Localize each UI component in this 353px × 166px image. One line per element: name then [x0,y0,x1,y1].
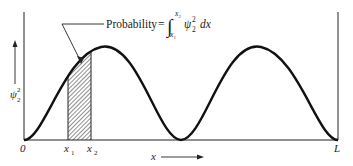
tick-x1: x [63,142,69,154]
integral-lower-limit: x₁ [169,30,176,39]
y-axis-label-subscript: 2 [17,96,21,104]
tick-L: L [333,142,340,154]
integrand-subscript: 2 [192,25,196,34]
integral-upper-limit: x₂ [174,9,181,18]
tick-x2-subscript: 2 [94,149,98,157]
x-arrowhead-icon [197,155,204,160]
y-axis-label-psi: ψ [10,88,17,100]
probability-density-diagram: Probability = ∫ x₂ x₁ ψ 2 2 dx ψ 2 2 0 x… [0,0,353,166]
tick-x1-subscript: 1 [71,149,75,157]
integrand-differential: dx [200,18,212,30]
integrand-superscript: 2 [192,15,196,24]
integrand-psi: ψ [184,18,192,31]
tick-origin: 0 [20,142,26,154]
y-axis-label-superscript: 2 [17,86,21,94]
x-axis-label: x [150,150,156,162]
y-arrowhead-icon [13,40,18,47]
annotation-equals: = [158,18,165,30]
annotation-probability-label: Probability [106,18,157,31]
shaded-probability-region [68,20,91,140]
tick-x2: x [86,142,92,154]
